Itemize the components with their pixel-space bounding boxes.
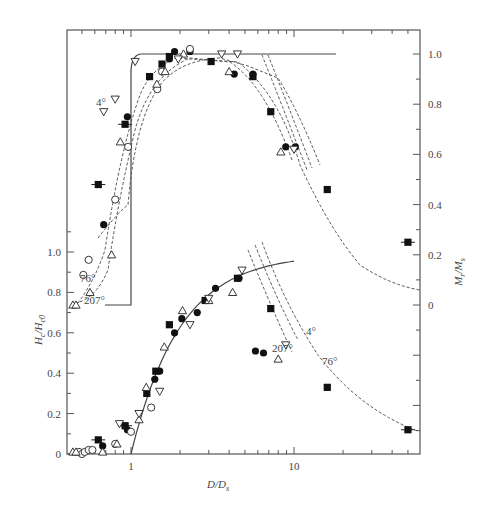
filled-circle-marker [178, 315, 185, 322]
y-right-tick-label: 0.4 [428, 199, 442, 211]
filled-square-marker [95, 436, 102, 443]
x-axis-title: D/Ds [206, 478, 229, 493]
open-triangle-down-marker [111, 96, 119, 103]
open-triangle-up-marker [274, 355, 282, 362]
upper-theory-curve [105, 54, 336, 305]
data-points [69, 45, 415, 457]
open-circle-marker [125, 143, 132, 150]
y-right-tick-label: 0.8 [428, 98, 442, 110]
open-triangle-down-marker [186, 322, 194, 329]
open-triangle-up-marker [116, 138, 124, 145]
y-right-tick-label: 1.0 [428, 48, 442, 60]
filled-square-marker [158, 60, 165, 67]
open-triangle-down-marker [100, 109, 108, 116]
y-left-tick-label: 0.6 [47, 327, 61, 339]
filled-square-marker [166, 53, 173, 60]
y-left-tick-label: 0 [56, 448, 62, 460]
filled-square-marker [152, 368, 159, 375]
y-left-tick-label: 1.0 [47, 246, 61, 258]
annotation-upper-207deg: 207° [84, 294, 105, 306]
open-triangle-up-marker [142, 383, 150, 390]
upper-dashed-76deg [78, 58, 420, 303]
filled-circle-marker [252, 347, 259, 354]
open-triangle-up-marker [160, 343, 168, 350]
filled-circle-marker [171, 329, 178, 336]
filled-square-marker [95, 181, 102, 188]
filled-square-marker [404, 239, 411, 246]
open-triangle-up-marker [153, 80, 161, 87]
plot-frame [67, 30, 420, 454]
filled-circle-marker [194, 309, 201, 316]
x-tick-label: 10 [289, 460, 301, 472]
upper-dashed-extra2 [268, 55, 312, 168]
y-right-tick-label: 0.2 [428, 249, 442, 261]
plot-border [67, 30, 420, 454]
open-triangle-up-marker [225, 67, 233, 74]
chart: 11000.20.40.60.81.000.20.40.60.81.0D/DsH… [0, 0, 484, 508]
filled-square-marker [234, 275, 241, 282]
annotation-lower-207deg: 207° [272, 342, 293, 354]
y-left-tick-label: 0.4 [47, 367, 61, 379]
filled-square-marker [166, 321, 173, 328]
y-left-axis-title: Hc/Hc0 [32, 315, 47, 346]
filled-square-marker [207, 58, 214, 65]
filled-square-marker [267, 108, 274, 115]
filled-square-marker [324, 384, 331, 391]
filled-square-marker [404, 426, 411, 433]
open-circle-marker [186, 45, 193, 52]
annotation-lower-4deg: 4° [306, 325, 316, 337]
open-circle-marker [148, 404, 155, 411]
filled-square-marker [267, 305, 274, 312]
open-circle-marker [85, 256, 92, 263]
open-circle-marker [112, 196, 119, 203]
annotation-upper-76deg: 76° [80, 272, 95, 284]
filled-square-marker [146, 73, 153, 80]
lower-dashed-76deg [262, 242, 420, 432]
filled-circle-marker [124, 113, 131, 120]
open-triangle-up-marker [228, 288, 236, 295]
filled-circle-marker [282, 143, 289, 150]
x-tick-label: 1 [128, 460, 134, 472]
lower-dashed-4deg [255, 245, 298, 340]
open-triangle-up-marker [178, 306, 186, 313]
y-left-tick-label: 0.2 [47, 408, 61, 420]
y-right-tick-label: 0.6 [428, 148, 442, 160]
filled-circle-marker [151, 376, 158, 383]
y-right-axis-title: Mr/Ms [452, 258, 467, 287]
filled-square-marker [121, 121, 128, 128]
filled-circle-marker [100, 221, 107, 228]
y-right-tick-label: 0 [428, 299, 434, 311]
filled-square-marker [324, 186, 331, 193]
open-circle-marker [89, 446, 96, 453]
upper-dashed-207deg [75, 58, 292, 303]
filled-circle-marker [260, 349, 267, 356]
open-triangle-down-marker [156, 388, 164, 395]
annotation-upper-4deg: 4° [96, 96, 106, 108]
filled-circle-marker [212, 285, 219, 292]
y-left-tick-label: 0.8 [47, 286, 61, 298]
filled-square-marker [249, 73, 256, 80]
annotation-lower-76deg: 76° [322, 355, 337, 367]
open-triangle-up-marker [107, 251, 115, 258]
open-circle-marker [127, 428, 134, 435]
